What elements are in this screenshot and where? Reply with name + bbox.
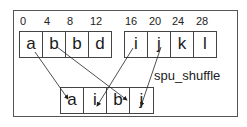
arrow-i xyxy=(97,48,133,106)
arrow-b xyxy=(57,47,127,100)
shuffle-arrows xyxy=(0,0,247,127)
arrow-a xyxy=(35,52,68,99)
arrow-j xyxy=(141,47,161,106)
